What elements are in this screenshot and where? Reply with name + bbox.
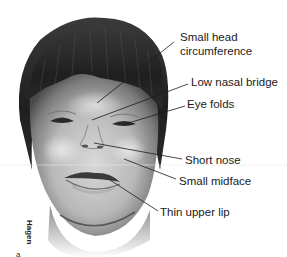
figure-marker: a [16,250,20,257]
face [30,73,158,237]
label-small-midface: Small midface [179,174,251,188]
label-small-head-line2: circumference [180,44,252,58]
label-small-head: Small head circumference [180,30,252,58]
label-low-nasal-bridge: Low nasal bridge [191,75,278,89]
label-small-head-line1: Small head [180,30,252,44]
artist-signature: Hagen [25,220,34,244]
label-eye-folds: Eye folds [187,97,234,111]
label-thin-upper-lip: Thin upper lip [160,205,230,219]
label-short-nose: Short nose [185,153,241,167]
